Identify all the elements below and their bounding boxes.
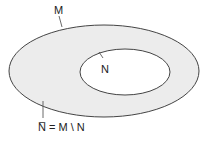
complement-label: N̅ = M \ N <box>38 122 85 133</box>
set-n-label: N <box>101 64 109 75</box>
m-label-leader <box>59 16 62 27</box>
set-n-ellipse <box>80 49 170 95</box>
set-m-label: M <box>54 5 63 16</box>
